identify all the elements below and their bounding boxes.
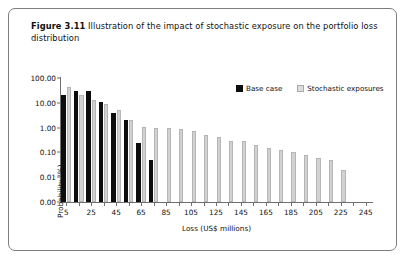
figure-caption: Figure 3.11 Illustration of the impact o… (31, 21, 379, 44)
legend-swatch-base-case (236, 85, 243, 92)
x-axis-tick-label: 205 (309, 208, 323, 217)
x-axis-tick-mark (79, 203, 80, 206)
y-axis-tick-mark (57, 102, 60, 103)
bar (204, 135, 208, 202)
x-axis-tick-label: 5 (64, 208, 69, 217)
y-axis-tick-label: 10.00 (35, 98, 56, 107)
chart-legend: Base case Stochastic exposures (236, 84, 384, 93)
x-axis-tick-label: 105 (184, 208, 198, 217)
x-axis-tick-mark (241, 203, 242, 206)
legend-label-base-case: Base case (246, 84, 282, 93)
bar (74, 91, 78, 202)
x-axis-tick-mark (353, 203, 354, 206)
x-axis-tick-label: 65 (136, 208, 145, 217)
bar (254, 145, 258, 202)
x-axis-tick-label: 165 (259, 208, 273, 217)
bar (279, 150, 283, 202)
x-axis-tick-label: 85 (161, 208, 170, 217)
x-axis-tick-mark (253, 203, 254, 206)
x-axis-tick-mark (316, 203, 317, 206)
bar (291, 152, 295, 202)
y-axis-tick-mark (57, 152, 60, 153)
x-axis-tick-mark (116, 203, 117, 206)
x-axis-tick-label: 185 (284, 208, 298, 217)
bar (136, 143, 140, 202)
x-axis-tick-label: 25 (87, 208, 96, 217)
bar (341, 170, 345, 202)
legend-label-stochastic-exposures: Stochastic exposures (307, 84, 383, 93)
bar (217, 137, 221, 202)
plot-area: 100.0010.001.000.100.010.00 Probability … (60, 78, 372, 202)
legend-item-stochastic-exposures: Stochastic exposures (297, 84, 383, 93)
x-axis-tick-mark (191, 203, 192, 206)
x-axis-ticks: 525456585105125145165185205225245 (60, 203, 373, 221)
bar (117, 110, 121, 202)
bar (129, 120, 133, 202)
bar (99, 102, 103, 202)
bar (124, 120, 128, 202)
x-axis-tick-mark (129, 203, 130, 206)
bar (179, 129, 183, 202)
bar (329, 160, 333, 202)
x-axis-tick-label: 225 (334, 208, 348, 217)
x-axis-tick-mark (278, 203, 279, 206)
x-axis-tick-mark (328, 203, 329, 206)
x-axis-tick-mark (204, 203, 205, 206)
y-axis-tick-label: 0.01 (40, 173, 56, 182)
x-axis-tick-mark (179, 203, 180, 206)
x-axis-tick-mark (141, 203, 142, 206)
y-axis-tick-mark (57, 78, 60, 79)
bar (192, 131, 196, 202)
bar (67, 87, 71, 202)
x-axis-title: Loss (US$ millions) (60, 224, 373, 233)
x-axis-tick-mark (91, 203, 92, 206)
x-axis-tick-mark (228, 203, 229, 206)
y-axis-tick-label: 100.00 (30, 74, 56, 83)
bar (304, 155, 308, 202)
y-axis-tick-mark (57, 127, 60, 128)
bar (104, 104, 108, 202)
x-axis-tick-mark (291, 203, 292, 206)
legend-item-base-case: Base case (236, 84, 282, 93)
bar (79, 95, 83, 202)
bar (92, 100, 96, 202)
x-axis-tick-mark (303, 203, 304, 206)
x-axis-tick-mark (366, 203, 367, 206)
bar (242, 141, 246, 202)
x-axis-tick-label: 245 (359, 208, 373, 217)
x-axis-tick-label: 145 (234, 208, 248, 217)
x-axis-tick-mark (104, 203, 105, 206)
x-axis-tick-label: 45 (112, 208, 121, 217)
y-axis-tick-label: 0.10 (40, 148, 56, 157)
bar (167, 128, 171, 202)
bar (86, 91, 90, 202)
y-axis-tick-label: 1.00 (40, 123, 56, 132)
x-axis-tick-mark (216, 203, 217, 206)
legend-swatch-stochastic-exposures (297, 85, 304, 92)
x-axis-tick-mark (166, 203, 167, 206)
bar (316, 158, 320, 202)
x-axis-tick-mark (154, 203, 155, 206)
x-axis-tick-mark (66, 203, 67, 206)
bar (154, 128, 158, 202)
y-axis-tick-label: 0.00 (40, 198, 56, 207)
figure-label: Figure 3.11 (31, 21, 85, 31)
bar (229, 141, 233, 202)
x-axis-tick-mark (341, 203, 342, 206)
bar (111, 113, 115, 202)
bar (149, 160, 153, 202)
x-axis-tick-mark (266, 203, 267, 206)
bar (142, 127, 146, 202)
bar (267, 148, 271, 202)
x-axis-tick-label: 125 (209, 208, 223, 217)
